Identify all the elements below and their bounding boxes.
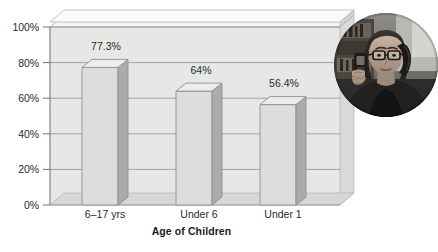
bar-front-face	[176, 91, 212, 205]
y-axis-tick-40: 40%	[0, 128, 39, 140]
y-axis-tick-100: 100%	[0, 21, 39, 33]
bar-front-face	[260, 105, 296, 205]
data-label-under-6: 64%	[171, 64, 231, 76]
chart-top-rim	[50, 10, 354, 22]
bar-side-face	[118, 59, 128, 205]
x-axis-category-under-6: Under 6	[164, 208, 234, 220]
data-label-6-17-yrs: 77.3%	[76, 40, 136, 52]
bar-side-face	[296, 97, 306, 205]
bar-front-face	[82, 67, 118, 205]
chart-y-tickmarks	[43, 27, 50, 205]
x-axis-title-text: Age of Children	[152, 225, 232, 237]
woman-on-phone-photo	[334, 13, 438, 117]
x-axis-category-6-17-yrs: 6–17 yrs	[70, 208, 140, 220]
data-label-under-1: 56.4%	[254, 77, 314, 89]
bar-under-1	[260, 97, 306, 205]
bar-under-6	[176, 83, 222, 205]
x-axis-title: Age of Children	[0, 225, 437, 237]
x-axis-category-under-1: Under 1	[248, 208, 318, 220]
y-axis-tick-60: 60%	[0, 92, 39, 104]
y-axis-tick-80: 80%	[0, 57, 39, 69]
y-axis-tick-20: 20%	[0, 163, 39, 175]
bar-6-17-yrs	[82, 59, 128, 205]
y-axis-tick-0: 0%	[0, 199, 39, 211]
bar-side-face	[212, 83, 222, 205]
